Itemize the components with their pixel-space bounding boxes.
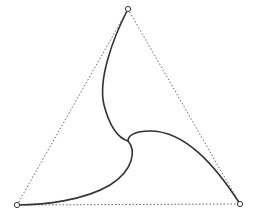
triangle-spiral-diagram: [0, 0, 257, 220]
bottom-arm-curve: [17, 141, 132, 205]
triangle-vertices: [14, 6, 242, 207]
edge-top-bottom-right: [128, 9, 240, 204]
edge-top-bottom-left: [17, 9, 128, 205]
edge-bottom-left-bottom-right: [17, 204, 240, 205]
right-arm-curve: [128, 131, 240, 204]
vertex-bottom-right-marker: [237, 201, 242, 206]
vertex-bottom-left-marker: [14, 202, 19, 207]
triangle-edges: [17, 9, 240, 205]
spiral-curves: [17, 9, 240, 205]
top-arm-curve: [103, 9, 128, 141]
vertex-top-marker: [125, 6, 130, 11]
